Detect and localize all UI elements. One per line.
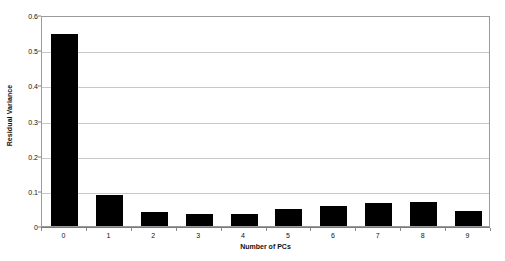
x-axis-tick-mark	[445, 228, 446, 231]
x-axis-tick-mark	[266, 228, 267, 231]
x-axis-tick-label: 5	[286, 232, 290, 239]
x-axis-tick-label: 3	[196, 232, 200, 239]
bar	[455, 211, 482, 226]
y-axis-tick-labels: 00.10.20.30.40.50.6	[18, 16, 38, 227]
y-axis-tick-label: 0.5	[28, 48, 38, 55]
y-axis-tick-label: 0.3	[28, 118, 38, 125]
bar	[51, 34, 78, 226]
bars-layer	[42, 17, 489, 226]
bar	[186, 214, 213, 226]
bar	[410, 202, 437, 226]
x-axis-tick-label: 0	[61, 232, 65, 239]
x-axis-tick-label: 8	[421, 232, 425, 239]
y-axis-title-label: Residual Variance	[7, 84, 14, 146]
bar	[365, 203, 392, 226]
bar	[275, 209, 302, 226]
x-axis-tick-mark	[41, 228, 42, 231]
x-axis-title: Number of PCs	[41, 243, 490, 250]
x-axis-tick-mark	[221, 228, 222, 231]
x-axis-tick-mark	[86, 228, 87, 231]
y-axis-tick-label: 0.1	[28, 188, 38, 195]
x-axis-tick-mark	[310, 228, 311, 231]
y-axis-title: Residual Variance	[0, 0, 20, 230]
x-axis-tick-label: 1	[106, 232, 110, 239]
x-axis-tick-mark	[490, 228, 491, 231]
x-axis-tick-mark	[355, 228, 356, 231]
x-axis-tick-label: 4	[241, 232, 245, 239]
y-axis-tick-label: 0.6	[28, 13, 38, 20]
x-axis-tick-mark	[131, 228, 132, 231]
x-axis-tick-mark	[400, 228, 401, 231]
bar	[141, 212, 168, 226]
x-axis-tick-mark	[176, 228, 177, 231]
x-axis-tick-label: 2	[151, 232, 155, 239]
x-axis-tick-labels: 0123456789	[41, 228, 490, 242]
plot-area	[41, 16, 490, 227]
bar	[320, 206, 347, 226]
y-axis-tick-label: 0.2	[28, 153, 38, 160]
x-axis-tick-label: 7	[376, 232, 380, 239]
bar	[96, 195, 123, 226]
bar	[231, 214, 258, 226]
y-axis-tick-label: 0.4	[28, 83, 38, 90]
x-axis-tick-label: 6	[331, 232, 335, 239]
bar-chart: Residual Variance 00.10.20.30.40.50.6 01…	[0, 0, 505, 261]
x-axis-tick-label: 9	[466, 232, 470, 239]
